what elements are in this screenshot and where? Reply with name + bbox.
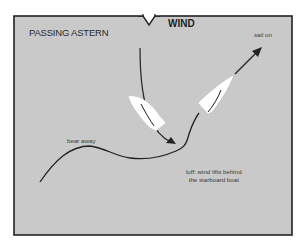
luff-label-line1: luff: wind lifts behind <box>186 168 242 176</box>
bear-away-label: bear away <box>67 137 96 144</box>
luff-label-line2: the starboard boat <box>186 176 242 184</box>
diagram-title: PASSING ASTERN <box>29 27 108 38</box>
luff-label: luff: wind lifts behind the starboard bo… <box>186 168 242 184</box>
sail-on-label: sail on <box>254 31 272 38</box>
wind-label: WIND <box>168 18 195 29</box>
passing-astern-diagram: PASSING ASTERN WIND sail on bear away lu… <box>0 0 300 249</box>
